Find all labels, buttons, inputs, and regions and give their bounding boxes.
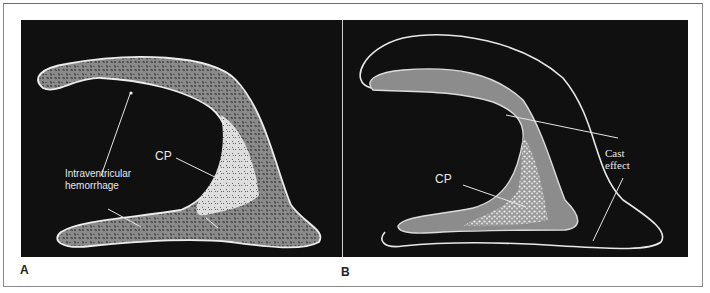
panel-a-illustration: Intraventricular hemorrhage CP	[21, 20, 342, 257]
hemorrhage-cast	[370, 69, 578, 233]
cast-effect-drawing	[343, 20, 688, 257]
panel-b-illustration: CP Cast effect	[343, 20, 688, 257]
annotation-text-line1: Intraventricular	[65, 168, 131, 180]
annotation-cp-b: CP	[435, 173, 452, 185]
annotation-text-line1: Cast	[605, 147, 630, 159]
annotation-text-line2: hemorrhage	[65, 180, 131, 192]
annotation-text-line2: effect	[605, 159, 630, 171]
annotation-cp-a: CP	[155, 150, 172, 162]
panel-label-b: B	[341, 265, 350, 279]
annotation-intraventricular-hemorrhage: Intraventricular hemorrhage	[65, 168, 131, 192]
panel-label-a: A	[20, 263, 29, 277]
annotation-cast-effect: Cast effect	[605, 147, 630, 171]
ventricle-hemorrhage-drawing	[21, 20, 342, 257]
ventricle-outline-a	[38, 57, 321, 248]
